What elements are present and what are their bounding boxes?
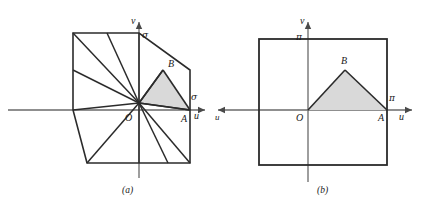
panel-a-graphic xyxy=(8,22,205,178)
figure-svg xyxy=(0,0,426,212)
panel-a-point-b-label: B xyxy=(168,59,174,69)
panel-b-v-tick-label: π xyxy=(296,33,302,42)
panel-b-u-axis-label-left: u xyxy=(215,113,220,122)
panel-b-v-axis xyxy=(305,22,311,182)
panel-b-point-b-label: B xyxy=(341,56,347,66)
panel-a-u-axis-label: u xyxy=(194,111,199,121)
panel-a-v-tick-label: σ xyxy=(142,31,148,40)
panel-b-u-axis-label: u xyxy=(399,112,404,122)
panel-b-graphic xyxy=(218,22,412,182)
panel-b-point-a-label: A xyxy=(378,113,384,123)
panel-b-u-tick-label: π xyxy=(389,94,395,103)
panel-b-v-axis-label: v xyxy=(300,16,304,26)
figure-container: v σ u σ O A B (a) v π u π O A B (b) u xyxy=(0,0,426,212)
panel-a-u-tick-label: σ xyxy=(191,93,197,102)
panel-b-shaded-triangle xyxy=(308,70,387,110)
panel-b-origin-label: O xyxy=(296,113,303,123)
panel-a-point-a-label: A xyxy=(181,114,187,124)
panel-a-origin-label: O xyxy=(125,113,132,123)
panel-a-v-axis-label: v xyxy=(131,16,135,26)
panel-b-caption: (b) xyxy=(317,186,328,196)
panel-a-caption: (a) xyxy=(122,186,133,196)
